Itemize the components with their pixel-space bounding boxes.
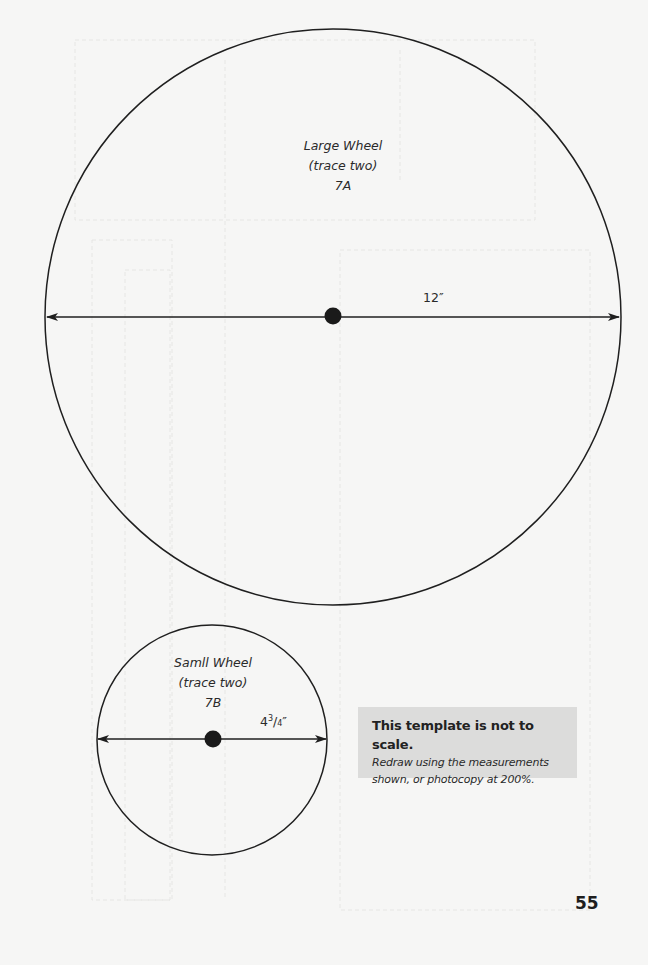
scale-note-title: This template is not to scale. [372, 716, 577, 754]
small-wheel-label: Samll Wheel (trace two) 7B [153, 653, 273, 713]
small-wheel-name: Samll Wheel [153, 653, 273, 673]
scale-note-box: This template is not to scale. Redraw us… [358, 707, 577, 778]
small-wheel-measurement: 43/4″ [260, 714, 287, 729]
scale-note-line-2: shown, or photocopy at 200%. [372, 771, 577, 788]
small-wheel-center-dot [205, 731, 222, 748]
large-wheel-center-dot [325, 308, 342, 325]
large-wheel-measurement: 12″ [423, 290, 444, 305]
large-wheel-name: Large Wheel [283, 136, 403, 156]
measurement-whole: 4 [260, 714, 268, 729]
small-wheel-part-id: 7B [153, 693, 273, 713]
scale-note-line-1: Redraw using the measurements [372, 754, 577, 771]
large-wheel-instruction: (trace two) [283, 156, 403, 176]
large-wheel-label: Large Wheel (trace two) 7A [283, 136, 403, 196]
page-number: 55 [575, 893, 599, 913]
large-wheel-template [45, 29, 621, 605]
large-wheel-part-id: 7A [283, 176, 403, 196]
measurement-unit: ″ [282, 714, 287, 729]
small-wheel-instruction: (trace two) [153, 673, 273, 693]
measurement-numerator: 3 [268, 714, 273, 723]
